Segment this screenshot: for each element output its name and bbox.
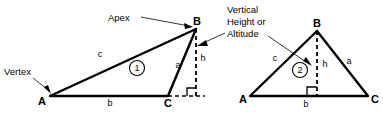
vertex-callout-arrowhead [44,85,51,94]
triangle-1-side-b-label: b [107,98,112,108]
triangle-2-vertex-a-label: A [239,93,247,105]
triangle-2-side-b-label: b [303,99,308,109]
triangle-1-altitude-label: h [200,53,205,63]
triangle-2-number-label: 2 [297,65,302,75]
apex-callout-leader [141,17,189,26]
triangle-1-right-angle-marker [187,88,196,96]
triangle-1-vertex-a-label: A [38,95,46,107]
vertical-height-arrowhead-right [303,57,312,66]
figure-canvas: 1 A B C c a b h 2 [0,0,383,114]
triangle-2-vertex-c-label: C [371,93,379,105]
triangle-1-side-c-label: c [98,49,103,59]
vertical-height-callout-line2: Height or [227,16,266,27]
triangle-2-side-c-label: c [273,53,278,63]
triangle-1-vertex-c-label: C [164,97,172,109]
triangle-1-number-label: 1 [134,63,139,73]
apex-callout: Apex [108,12,193,29]
vertical-height-callout-line1: Vertical [227,4,258,15]
triangle-1-vertex-b-label: B [193,15,201,27]
triangle-2-right-angle-marker [307,87,317,96]
triangle-2-side-c [250,31,317,96]
vertex-callout-label: Vertex [4,66,31,77]
triangle-2-vertex-b-label: B [313,17,321,29]
vertical-height-callout: Vertical Height or Altitude [197,4,312,66]
apex-callout-label: Apex [108,12,130,23]
vertical-height-arrowhead-left [197,40,208,46]
vertical-height-callout-line3: Altitude [227,28,259,39]
triangle-1-side-a-label: a [175,60,180,70]
triangle-figure: 1 A B C c a b h 2 [0,0,383,114]
vertex-callout: Vertex [4,66,51,94]
triangle-1-group: 1 A B C c a b h [38,15,205,109]
triangle-2-altitude-label: h [322,59,327,69]
triangle-2-side-a-label: a [346,56,351,66]
apex-callout-arrowhead [184,23,193,29]
triangle-1-side-c [50,29,196,96]
